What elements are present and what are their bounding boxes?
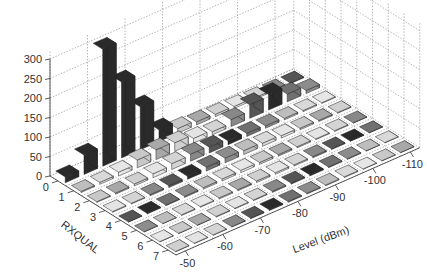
level-tick-label: -90 bbox=[329, 191, 345, 203]
bar bbox=[341, 129, 364, 141]
bar bbox=[266, 161, 289, 174]
bar bbox=[303, 145, 326, 158]
rxqual-tick-label: 5 bbox=[122, 230, 128, 242]
bar bbox=[207, 205, 230, 218]
bar bbox=[194, 176, 217, 189]
rxqual-tick-label: 6 bbox=[137, 240, 143, 252]
bar bbox=[135, 220, 158, 232]
bar bbox=[322, 137, 345, 150]
bar bbox=[338, 147, 361, 160]
bar bbox=[222, 215, 245, 227]
level-axis-label: Level (dBm) bbox=[291, 223, 351, 255]
level-tick-label: -110 bbox=[402, 158, 423, 170]
bar bbox=[291, 116, 314, 129]
z-tick-label: 300 bbox=[24, 53, 42, 65]
bar bbox=[75, 143, 98, 174]
bar bbox=[93, 37, 116, 166]
bar bbox=[169, 221, 192, 233]
bar bbox=[204, 223, 227, 235]
bar bbox=[166, 240, 189, 252]
bar bbox=[213, 167, 236, 181]
rxqual-tick-label: 3 bbox=[90, 211, 96, 223]
rxqual-tick-label: 7 bbox=[153, 250, 159, 262]
z-tick-label: 0 bbox=[36, 170, 42, 182]
bar bbox=[144, 162, 167, 178]
bar bbox=[269, 143, 292, 156]
bar bbox=[119, 210, 142, 222]
level-tick-label: -50 bbox=[179, 257, 195, 269]
bar bbox=[197, 155, 220, 171]
bar bbox=[275, 107, 298, 120]
bar bbox=[228, 178, 251, 191]
bar bbox=[178, 164, 201, 179]
bar bbox=[56, 165, 79, 183]
bar bbox=[294, 99, 317, 112]
bar bbox=[360, 121, 383, 133]
rxqual-tick-label: 1 bbox=[59, 191, 65, 203]
bar3d-chart: 05010015020025030001234567RXQUAL-50-60-7… bbox=[0, 0, 427, 276]
bar bbox=[210, 186, 233, 199]
level-tick-label: -80 bbox=[292, 207, 308, 219]
rxqual-tick-label: 2 bbox=[74, 201, 80, 213]
bar bbox=[256, 114, 279, 128]
level-tick-label: -100 bbox=[364, 174, 386, 186]
bar bbox=[272, 124, 295, 138]
bar bbox=[335, 165, 358, 178]
bar bbox=[159, 174, 182, 188]
bar bbox=[250, 151, 273, 165]
z-tick-label: 250 bbox=[24, 73, 42, 85]
level-tick-label: -70 bbox=[254, 224, 270, 236]
rxqual-tick-label: 0 bbox=[43, 181, 49, 193]
rxqual-tick-label: 4 bbox=[106, 220, 112, 232]
bar bbox=[391, 141, 414, 153]
bar bbox=[225, 95, 248, 109]
bar bbox=[185, 231, 208, 243]
bar bbox=[109, 160, 132, 176]
z-tick-label: 50 bbox=[30, 151, 42, 163]
bar bbox=[188, 213, 211, 225]
z-tick-label: 150 bbox=[24, 112, 42, 124]
z-tick-label: 100 bbox=[24, 131, 42, 143]
bar bbox=[225, 196, 248, 209]
bar bbox=[153, 212, 176, 224]
level-tick-label: -60 bbox=[217, 240, 233, 252]
bar bbox=[247, 169, 270, 182]
bar bbox=[319, 155, 342, 168]
z-tick-label: 200 bbox=[24, 92, 42, 104]
bar bbox=[316, 173, 339, 186]
bar bbox=[372, 149, 395, 161]
bar bbox=[354, 157, 377, 169]
bar bbox=[150, 230, 173, 242]
bar bbox=[125, 172, 148, 186]
bar bbox=[231, 159, 254, 173]
bar bbox=[375, 131, 398, 143]
bar bbox=[241, 206, 264, 219]
bar bbox=[344, 111, 367, 123]
bar bbox=[306, 127, 329, 140]
bar bbox=[90, 171, 113, 185]
bar bbox=[191, 195, 214, 208]
bar bbox=[357, 139, 380, 151]
rxqual-axis-label: RXQUAL bbox=[59, 218, 102, 255]
